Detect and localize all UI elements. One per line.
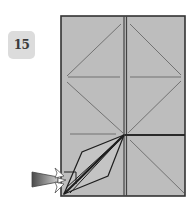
origami-diagram xyxy=(0,0,196,204)
push-arrow-icon xyxy=(32,172,58,187)
